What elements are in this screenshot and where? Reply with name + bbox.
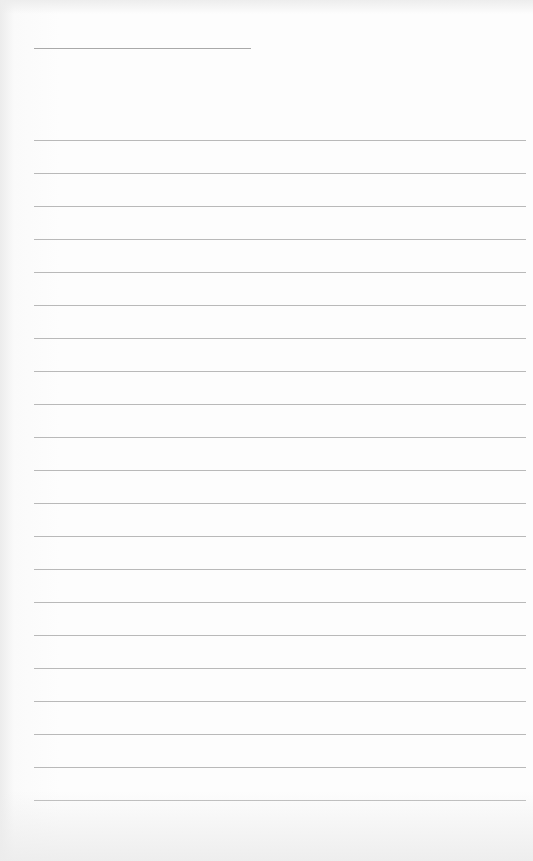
ruled-line — [34, 470, 526, 471]
ruled-line — [34, 767, 526, 768]
ruled-line — [34, 305, 526, 306]
ruled-line — [34, 173, 526, 174]
header-name-line — [34, 48, 251, 49]
ruled-line — [34, 404, 526, 405]
ruled-line — [34, 668, 526, 669]
ruled-line — [34, 800, 526, 801]
ruled-line — [34, 239, 526, 240]
ruled-line — [34, 371, 526, 372]
ruled-line — [34, 206, 526, 207]
ruled-line — [34, 503, 526, 504]
ruled-line — [34, 272, 526, 273]
paper-top-edge — [0, 0, 533, 14]
ruled-line — [34, 602, 526, 603]
ruled-line — [34, 701, 526, 702]
ruled-line — [34, 140, 526, 141]
ruled-line — [34, 635, 526, 636]
lined-paper-sheet — [0, 0, 533, 861]
ruled-line — [34, 734, 526, 735]
ruled-line — [34, 569, 526, 570]
ruled-line — [34, 536, 526, 537]
ruled-line — [34, 338, 526, 339]
ruled-line — [34, 437, 526, 438]
